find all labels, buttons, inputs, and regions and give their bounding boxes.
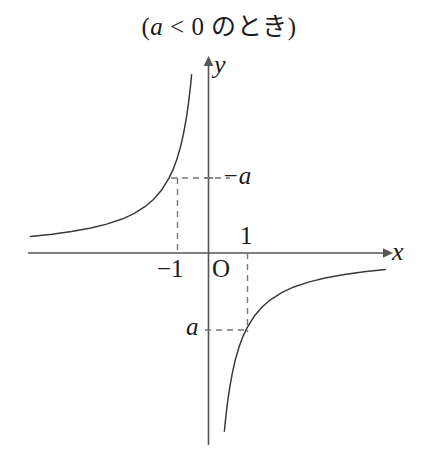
y-tick-label-negative-a: −a bbox=[222, 162, 251, 190]
y-tick-label-a: a bbox=[186, 313, 199, 341]
x-tick-label-negative-one: −1 bbox=[157, 255, 184, 283]
axes-group bbox=[28, 56, 393, 445]
x-tick-label-one: 1 bbox=[240, 222, 253, 250]
y-axis-label: y bbox=[214, 50, 226, 80]
x-axis-label: x bbox=[392, 237, 404, 267]
y-axis-arrowhead bbox=[204, 56, 214, 66]
origin-label: O bbox=[212, 255, 230, 283]
hyperbola-branch-lower-right bbox=[224, 269, 385, 431]
hyperbola-branch-upper-left bbox=[31, 75, 192, 237]
figure-container: (a < 0 のとき) y x −a a −1 O 1 bbox=[0, 0, 438, 460]
